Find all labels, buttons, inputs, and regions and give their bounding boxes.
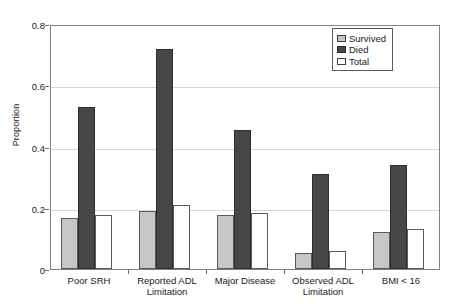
legend-swatch-survived xyxy=(337,35,346,42)
x-axis-tick-mark xyxy=(362,270,363,274)
legend-item-died: Died xyxy=(337,44,386,55)
bar-survived xyxy=(61,218,78,269)
x-axis-tick-mark xyxy=(284,270,285,274)
bar-chart-figure: Proportion 00.20.40.60.8 Poor SRHReporte… xyxy=(0,0,453,308)
y-axis-tick-labels: 00.20.40.60.8 xyxy=(17,0,45,308)
bar-died xyxy=(312,174,329,269)
y-axis-tick-label: 0.2 xyxy=(19,203,45,214)
y-axis-tick-label: 0.4 xyxy=(19,142,45,153)
legend-label: Died xyxy=(349,44,369,55)
x-axis-category-label: BMI < 16 xyxy=(352,276,450,287)
x-axis-category-label-line: Limitation xyxy=(118,287,216,298)
bar-total xyxy=(329,251,346,269)
y-axis-tick-label: 0.8 xyxy=(19,20,45,31)
legend-swatch-total xyxy=(337,58,346,65)
chart-legend: SurvivedDiedTotal xyxy=(332,28,393,71)
y-axis-tick-mark xyxy=(45,86,49,87)
bar-survived xyxy=(139,211,156,269)
y-axis-tick-mark xyxy=(45,25,49,26)
x-axis-category-label-line: BMI < 16 xyxy=(352,276,450,287)
bar-died xyxy=(234,130,251,269)
y-axis-tick-label: 0 xyxy=(19,265,45,276)
y-axis-tick-mark xyxy=(45,270,49,271)
bar-total xyxy=(251,213,268,269)
x-axis-category-label-line: Limitation xyxy=(274,287,372,298)
bar-survived xyxy=(217,215,234,269)
y-axis-tick-mark xyxy=(45,148,49,149)
legend-label: Total xyxy=(349,56,369,67)
bar-survived xyxy=(373,232,390,269)
bar-died xyxy=(78,107,95,269)
bar-died xyxy=(156,49,173,270)
legend-item-total: Total xyxy=(337,56,386,67)
legend-label: Survived xyxy=(349,33,386,44)
legend-swatch-died xyxy=(337,46,346,53)
bar-total xyxy=(173,205,190,269)
bar-total xyxy=(95,215,112,269)
x-axis-tick-mark xyxy=(128,270,129,274)
legend-item-survived: Survived xyxy=(337,33,386,44)
bar-total xyxy=(407,229,424,269)
y-axis-tick-mark xyxy=(45,209,49,210)
x-axis-tick-mark xyxy=(206,270,207,274)
y-axis-tick-label: 0.6 xyxy=(19,81,45,92)
bar-died xyxy=(390,165,407,269)
bar-survived xyxy=(295,253,312,269)
